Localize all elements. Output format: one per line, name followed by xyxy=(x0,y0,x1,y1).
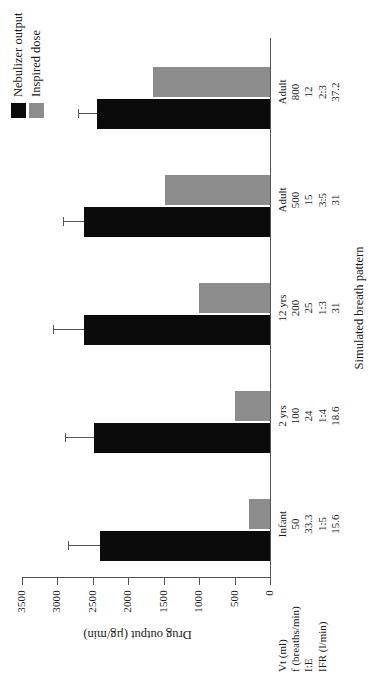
axis-tick xyxy=(164,578,165,585)
category-label-column: 2 yrs100241:418.6 xyxy=(276,381,342,451)
legend-label: Inspired dose xyxy=(28,30,44,97)
category-value: 500 xyxy=(289,165,302,235)
rotated-chart-canvas: 0500100015002000250030003500 Drug output… xyxy=(0,0,389,674)
category-name: 12 yrs xyxy=(276,273,289,343)
category-value: 33.3 xyxy=(302,489,315,559)
category-value: 25 xyxy=(302,273,315,343)
category-value: 1:5 xyxy=(316,489,329,559)
bar-inspired-dose xyxy=(199,283,270,313)
legend-item: Nebulizer output xyxy=(10,13,26,118)
category-name: Infant xyxy=(276,489,289,559)
axis-tick-label: 0 xyxy=(264,590,275,636)
error-bar xyxy=(68,545,100,546)
category-value: 3:5 xyxy=(316,165,329,235)
category-label-column: 12 yrs200251:331 xyxy=(276,273,342,343)
axis-tick xyxy=(270,578,271,585)
row-header: Vt (ml) xyxy=(276,580,289,672)
parameter-row-headers: Vt (ml)f (breaths/min)I:EIFR (l/min) xyxy=(276,580,329,672)
axis-tick xyxy=(57,578,58,585)
legend-swatch-icon xyxy=(29,103,44,118)
axis-tick xyxy=(235,578,236,585)
category-value: 15.6 xyxy=(329,489,342,559)
legend-swatch-icon xyxy=(11,103,26,118)
row-header: I:E xyxy=(302,580,315,672)
category-value: 31 xyxy=(329,165,342,235)
plot-area: 0500100015002000250030003500 Drug output… xyxy=(0,0,389,674)
category-label-column: Infant5033.31:515.6 xyxy=(276,489,342,559)
category-value: 100 xyxy=(289,381,302,451)
error-bar xyxy=(63,221,84,222)
category-value: 1:4 xyxy=(316,381,329,451)
error-bar xyxy=(78,113,97,114)
x-axis-title: Simulated breath pattern xyxy=(352,38,367,578)
error-bar xyxy=(65,437,95,438)
axis-tick-label: 3500 xyxy=(16,590,27,636)
bar-inspired-dose xyxy=(165,175,270,205)
bar-nebulizer-output xyxy=(94,423,270,453)
category-value: 2:3 xyxy=(316,57,329,127)
category-label-column: Adult500153:531 xyxy=(276,165,342,235)
error-bar-cap xyxy=(78,109,79,118)
category-name: Adult xyxy=(276,165,289,235)
y-axis-title: Drug output (µg/min) xyxy=(28,627,248,642)
category-name: Adult xyxy=(276,57,289,127)
bar-nebulizer-output xyxy=(84,315,270,345)
category-value: 15 xyxy=(302,165,315,235)
category-value: 800 xyxy=(289,57,302,127)
category-value: 31 xyxy=(329,273,342,343)
category-value: 50 xyxy=(289,489,302,559)
legend-item: Inspired dose xyxy=(28,13,44,118)
row-header: f (breaths/min) xyxy=(289,580,302,672)
row-header: IFR (l/min) xyxy=(316,580,329,672)
category-value: 37.2 xyxy=(329,57,342,127)
value-axis-line xyxy=(22,577,270,578)
bar-nebulizer-output xyxy=(84,207,270,237)
error-bar-cap xyxy=(63,217,64,226)
legend-label: Nebulizer output xyxy=(10,13,26,97)
category-value: 1:3 xyxy=(316,273,329,343)
error-bar-cap xyxy=(68,541,69,550)
axis-tick xyxy=(199,578,200,585)
category-value: 200 xyxy=(289,273,302,343)
axis-tick xyxy=(128,578,129,585)
category-value: 12 xyxy=(302,57,315,127)
category-label-column: Adult800122:337.2 xyxy=(276,57,342,127)
category-value: 18.6 xyxy=(329,381,342,451)
axis-tick xyxy=(93,578,94,585)
axis-tick xyxy=(22,578,23,585)
category-name: 2 yrs xyxy=(276,381,289,451)
figure-root: 0500100015002000250030003500 Drug output… xyxy=(0,0,389,674)
bar-nebulizer-output xyxy=(100,531,270,561)
category-value: 24 xyxy=(302,381,315,451)
chart-legend: Nebulizer outputInspired dose xyxy=(10,13,46,118)
category-axis-line xyxy=(270,38,271,578)
bar-inspired-dose xyxy=(249,499,270,529)
bar-nebulizer-output xyxy=(97,99,270,129)
error-bar xyxy=(53,329,84,330)
error-bar-cap xyxy=(65,433,66,442)
bar-inspired-dose xyxy=(153,67,270,97)
bar-inspired-dose xyxy=(235,391,270,421)
error-bar-cap xyxy=(53,325,54,334)
